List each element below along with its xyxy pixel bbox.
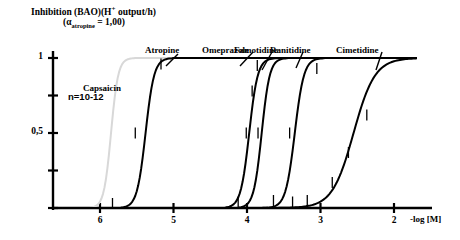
curve-label-atropine: Atropine: [145, 45, 179, 55]
leader-line-atropine: [166, 54, 178, 66]
chart-figure: Inhibition (BAO)(H+ output/h) (αatropine…: [0, 0, 460, 240]
x-tick-label-5: 5: [160, 215, 188, 225]
curve-omeprazole: [63, 58, 416, 208]
x-tick-label-6: 6: [86, 215, 114, 225]
curve-capsaicin: [63, 58, 416, 208]
y-tick-label-0_5: 0,5: [11, 126, 43, 136]
x-tick-label-3: 3: [307, 215, 335, 225]
x-axis-title: -log [M]: [410, 214, 441, 224]
curve-group-omeprazole: [63, 58, 416, 208]
curve-group-atropine: [63, 58, 416, 209]
y-tick-label-1: 1: [11, 51, 43, 61]
curve-label-capsaicin: Capsaicin: [83, 83, 121, 93]
curve-group-famotidine: [63, 58, 416, 208]
x-tick-label-2: 2: [380, 215, 408, 225]
curve-group-ranitidine: [63, 58, 416, 208]
x-tick-label-4: 4: [233, 215, 261, 225]
curve-label-ranitidine: Ranitidine: [270, 45, 311, 55]
chart-canvas: [0, 0, 460, 240]
curve-group-capsaicin: [63, 58, 416, 208]
curve-label-cimetidine: Cimetidine: [336, 45, 379, 55]
curve-ranitidine: [63, 58, 416, 208]
curve-atropine: [63, 58, 416, 208]
curve-famotidine: [63, 58, 416, 208]
